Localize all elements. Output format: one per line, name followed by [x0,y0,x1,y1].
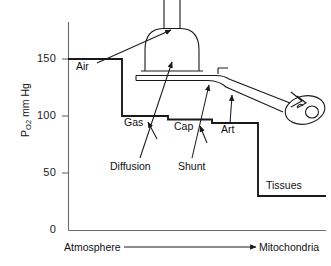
step-label-cap: Cap [174,120,193,132]
y-axis-title-units: mm Hg [19,83,31,117]
step-label-gas: Gas [124,116,143,128]
y-axis-title-p: P [19,130,31,137]
alveolus-dome [145,29,199,72]
arrow-cap-to-step [200,126,207,143]
cell-nucleus [306,106,319,118]
x-axis-start-label: Atmosphere [64,241,121,253]
cascade-step-line [68,59,326,196]
y-tick-label-0: 0 [26,223,56,235]
callout-label-shunt: Shunt [178,160,205,172]
y-axis-title: PO2 mm Hg [19,65,31,155]
capillary-lower-wall [136,81,283,113]
axes [69,22,327,231]
cell-outline [283,92,328,128]
x-axis-end-label: Mitochondria [259,241,319,253]
arrow-shunt-to-capillary [192,85,209,158]
arrow-air-to-airway [97,30,171,63]
step-label-air: Air [76,60,89,72]
y-tick-label-150: 150 [26,52,56,64]
step-label-art: Art [221,123,234,135]
y-tick-label-50: 50 [26,166,56,178]
y-axis-title-subscript-o: O [24,124,33,130]
arrow-diffusion-to-alveolus [140,62,172,158]
y-axis-ticks [62,59,69,173]
anatomy-mitochondrion-group [283,92,328,128]
capillary-branch-fork [218,68,228,74]
anatomy-capillary-group [136,68,306,112]
arrow-art-to-capillary [230,95,232,124]
step-label-tissues: Tissues [266,179,302,191]
leader-arrows [97,30,232,158]
callout-label-diffusion: Diffusion [110,160,151,172]
y-axis-title-subscript-2: 2 [24,120,33,124]
oxygen-cascade-figure: 150 100 50 0 PO2 mm Hg Air Gas Cap Art T… [0,0,331,266]
anatomy-alveolus-group [141,0,203,71]
capillary-upper-wall [136,76,290,104]
